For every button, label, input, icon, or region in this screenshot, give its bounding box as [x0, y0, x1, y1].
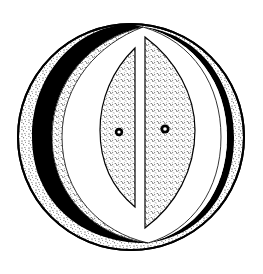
right-nucleus-icon: [160, 124, 169, 133]
left-nucleus-icon: [115, 128, 123, 136]
drawing-canvas: [0, 0, 263, 274]
illustration-figure: [0, 0, 263, 274]
